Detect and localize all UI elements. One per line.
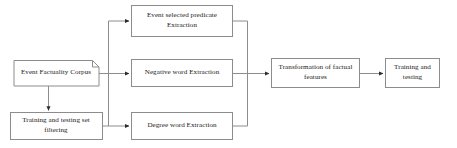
node-degree-word-extraction bbox=[132, 113, 233, 140]
flowchart-canvas bbox=[0, 0, 457, 148]
node-event-factuality-corpus bbox=[14, 61, 99, 87]
node-negative-word-extraction bbox=[132, 60, 233, 87]
node-training-and-testing bbox=[386, 59, 440, 88]
node-training-testing-set-filtering bbox=[11, 113, 103, 140]
flowchart-diagram: Event Factuality Corpus Training and tes… bbox=[0, 0, 457, 148]
node-transformation-of-factual-features bbox=[272, 59, 360, 88]
node-event-selected-predicate-extraction bbox=[132, 6, 233, 37]
